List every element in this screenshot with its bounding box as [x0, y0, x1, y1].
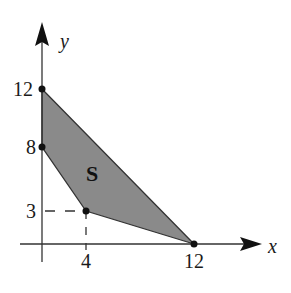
- y-tick-8: 8: [26, 136, 36, 158]
- point-12-0: [191, 241, 198, 248]
- point-0-8: [39, 144, 46, 151]
- point-4-3: [83, 208, 90, 215]
- x-tick-12: 12: [184, 250, 204, 272]
- y-axis-label: y: [58, 30, 69, 53]
- y-tick-3: 3: [26, 200, 36, 222]
- x-axis-label: x: [267, 235, 277, 257]
- point-0-12: [39, 86, 46, 93]
- region-s: [42, 89, 194, 244]
- feasible-region-diagram: y x 12 8 3 4 12 S: [0, 0, 291, 293]
- x-tick-4: 4: [81, 250, 91, 272]
- y-tick-12: 12: [13, 78, 33, 100]
- region-label: S: [86, 161, 98, 186]
